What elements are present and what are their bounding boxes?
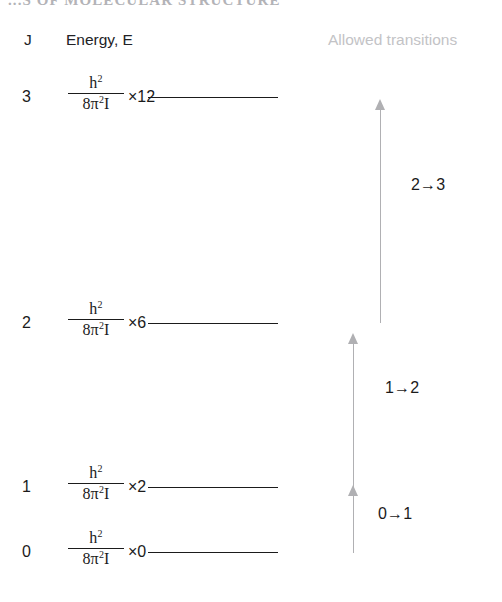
formula-numerator: h2 <box>68 465 124 482</box>
transition-arrow <box>348 485 359 553</box>
energy-level-line <box>148 552 278 553</box>
column-header-quantum-number: J <box>24 31 32 49</box>
energy-level-quantum-number: 1 <box>22 478 31 496</box>
fraction-bar <box>68 319 124 320</box>
energy-level-line <box>148 323 278 324</box>
energy-level-row: 0h28π2I×0 <box>0 530 300 576</box>
formula-denominator: 8π2I <box>68 321 124 338</box>
energy-multiplier: ×6 <box>128 314 146 332</box>
energy-level-quantum-number: 3 <box>22 88 31 106</box>
fraction-bar <box>68 483 124 484</box>
transition-label: 2→3 <box>411 176 445 194</box>
energy-multiplier: ×0 <box>128 543 146 561</box>
transition-label: 1→2 <box>385 379 419 397</box>
energy-formula-fraction: h28π2I <box>68 75 124 112</box>
energy-level-line <box>148 487 278 488</box>
energy-level-row: 3h28π2I×12 <box>0 75 300 121</box>
arrow-shaft <box>380 106 381 323</box>
column-header-energy: Energy, E <box>66 31 133 49</box>
formula-denominator: 8π2I <box>68 485 124 502</box>
energy-level-row: 2h28π2I×6 <box>0 301 300 347</box>
fraction-bar <box>68 93 124 94</box>
arrow-shaft <box>353 492 354 553</box>
running-head: ...S OF MOLECULAR STRUCTURE <box>8 0 428 8</box>
transition-arrow <box>375 99 386 323</box>
fraction-bar <box>68 548 124 549</box>
column-header-allowed-transitions: Allowed transitions <box>328 31 457 49</box>
transition-label: 0→1 <box>378 505 412 523</box>
energy-formula-fraction: h28π2I <box>68 465 124 502</box>
energy-multiplier: ×2 <box>128 478 146 496</box>
transition-arrow <box>348 333 359 487</box>
formula-numerator: h2 <box>68 301 124 318</box>
energy-level-quantum-number: 0 <box>22 543 31 561</box>
energy-level-quantum-number: 2 <box>22 314 31 332</box>
arrow-shaft <box>353 340 354 487</box>
formula-numerator: h2 <box>68 530 124 547</box>
formula-denominator: 8π2I <box>68 550 124 567</box>
energy-level-row: 1h28π2I×2 <box>0 465 300 511</box>
energy-formula-fraction: h28π2I <box>68 530 124 567</box>
formula-numerator: h2 <box>68 75 124 92</box>
formula-denominator: 8π2I <box>68 95 124 112</box>
energy-level-line <box>148 97 278 98</box>
energy-formula-fraction: h28π2I <box>68 301 124 338</box>
